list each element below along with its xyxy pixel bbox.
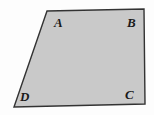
vertex-label-d: D <box>20 90 29 103</box>
geometry-figure-canvas: A B C D <box>0 0 154 115</box>
vertex-label-c: C <box>125 88 134 101</box>
vertex-label-b: B <box>127 16 136 29</box>
vertex-label-a: A <box>54 16 63 29</box>
